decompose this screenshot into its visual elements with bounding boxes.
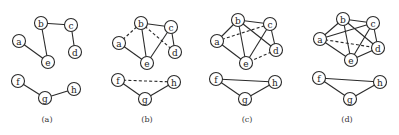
node-d: d <box>372 42 385 55</box>
node-label: g <box>142 95 148 105</box>
panel-b: abcdefgh(b) <box>112 17 182 125</box>
node-c: c <box>264 18 277 31</box>
node-label: a <box>16 37 22 47</box>
node-label: c <box>168 23 173 33</box>
node-c: c <box>65 19 78 32</box>
panel-c: abcdefgh(c) <box>210 14 283 125</box>
node-label: e <box>45 58 50 68</box>
node-a: a <box>314 33 327 46</box>
node-label: g <box>42 94 48 104</box>
node-d: d <box>169 46 182 59</box>
node-f: f <box>313 72 326 85</box>
node-label: d <box>375 44 381 54</box>
node-b: b <box>232 14 245 27</box>
node-d: d <box>270 44 283 57</box>
node-b: b <box>135 17 148 30</box>
panel-caption: (c) <box>242 115 253 124</box>
edge-f-h <box>216 79 275 82</box>
node-g: g <box>344 93 357 106</box>
node-d: d <box>69 46 82 59</box>
node-label: c <box>370 19 375 29</box>
node-label: a <box>317 35 323 45</box>
edge-f-h-dashed <box>118 80 174 82</box>
node-label: a <box>116 39 122 49</box>
node-a: a <box>211 35 224 48</box>
node-a: a <box>113 37 126 50</box>
panel-caption: (b) <box>141 115 152 124</box>
node-e: e <box>42 56 55 69</box>
panel-a: abcdefgh(a) <box>12 17 82 125</box>
node-label: d <box>172 48 178 58</box>
node-label: b <box>38 19 44 29</box>
node-label: e <box>243 59 248 69</box>
node-h: h <box>68 83 81 96</box>
node-label: h <box>171 78 177 88</box>
node-b: b <box>35 17 48 30</box>
node-label: g <box>242 95 248 105</box>
node-e: e <box>240 57 253 70</box>
node-label: c <box>68 21 73 31</box>
node-label: e <box>348 56 353 66</box>
node-c: c <box>165 21 178 34</box>
node-e: e <box>345 54 358 67</box>
node-label: e <box>144 59 149 69</box>
node-label: b <box>138 19 144 29</box>
node-label: g <box>347 95 353 105</box>
node-label: b <box>235 16 241 26</box>
node-f: f <box>12 75 25 88</box>
edge-f-h <box>319 78 380 82</box>
panel-caption: (d) <box>341 115 352 124</box>
node-g: g <box>139 93 152 106</box>
node-c: c <box>367 17 380 30</box>
node-e: e <box>141 57 154 70</box>
node-label: h <box>272 78 278 88</box>
node-h: h <box>168 76 181 89</box>
node-f: f <box>210 73 223 86</box>
graph-figure: abcdefgh(a)abcdefgh(b)abcdefgh(c)abcdefg… <box>0 0 399 135</box>
node-g: g <box>239 93 252 106</box>
panel-d: abcdefgh(d) <box>313 13 387 125</box>
node-label: b <box>340 15 346 25</box>
node-h: h <box>269 76 282 89</box>
node-a: a <box>13 35 26 48</box>
node-b: b <box>337 13 350 26</box>
node-label: h <box>377 78 383 88</box>
node-f: f <box>112 74 125 87</box>
node-label: h <box>71 85 77 95</box>
node-label: c <box>267 20 272 30</box>
node-h: h <box>374 76 387 89</box>
node-label: d <box>273 46 279 56</box>
node-g: g <box>39 92 52 105</box>
node-label: a <box>214 37 220 47</box>
node-label: d <box>72 48 78 58</box>
panel-caption: (a) <box>41 115 52 124</box>
